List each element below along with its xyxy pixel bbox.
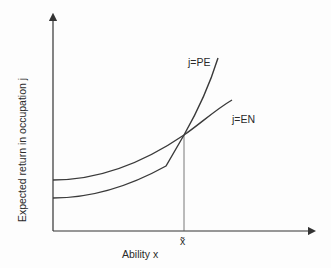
y-axis-label: Expected return in occupation j: [16, 78, 28, 222]
occupation-return-diagram: j=PE j=EN x̃ Ability x Expected return i…: [0, 0, 331, 268]
threshold-label: x̃: [180, 235, 186, 247]
diagram-canvas: j=PE j=EN x̃ Ability x Expected return i…: [0, 0, 331, 268]
curve-en: [53, 100, 232, 180]
curve-en-label: j=EN: [231, 113, 255, 125]
curve-pe-label: j=PE: [187, 56, 210, 68]
x-axis-label: Ability x: [122, 248, 159, 260]
